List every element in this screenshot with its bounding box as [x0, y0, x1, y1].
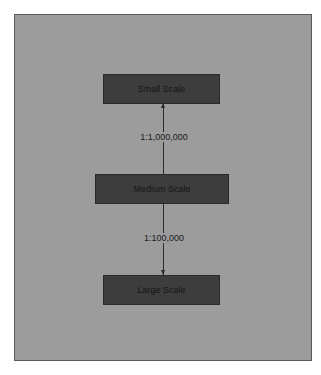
node-small-scale: Small Scale	[103, 74, 220, 104]
node-label: Large Scale	[137, 285, 185, 295]
edge-label-large-scale-ratio: 1:100,000	[143, 233, 185, 243]
node-label: Medium Scale	[133, 184, 190, 194]
node-medium-scale: Medium Scale	[95, 174, 229, 204]
node-label: Small Scale	[138, 84, 186, 94]
node-large-scale: Large Scale	[103, 275, 220, 305]
edge-label-small-scale-ratio: 1:1,000,000	[139, 132, 189, 142]
